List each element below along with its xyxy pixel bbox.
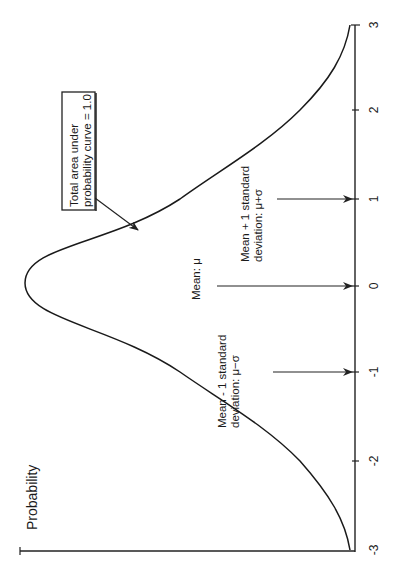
tick-label-p3: 3 xyxy=(367,21,381,28)
tick-label-p1: 1 xyxy=(367,195,381,202)
tick-label-m1: -1 xyxy=(367,366,381,377)
tick-label-0: 0 xyxy=(367,282,381,289)
y-axis-label: Probability xyxy=(24,465,40,530)
minus-sigma-label-line2: deviation: μ−σ xyxy=(229,355,241,428)
plus-sigma-label-line2: deviation: μ+σ xyxy=(252,189,264,262)
tick-label-m3: -3 xyxy=(367,544,381,555)
normal-distribution-chart: -3 -2 -1 0 1 2 3 Probability Total area … xyxy=(0,0,399,584)
callout-arrow xyxy=(95,198,138,230)
tick-label-m2: -2 xyxy=(367,455,381,466)
x-tick-labels: -3 -2 -1 0 1 2 3 xyxy=(367,21,381,555)
callout-line2: probability curve = 1.0 xyxy=(81,94,93,207)
callout-line1: Total area under xyxy=(68,124,80,207)
mean-label: Mean: μ xyxy=(190,258,202,300)
tick-label-p2: 2 xyxy=(367,106,381,113)
minus-sigma-label-line1: Mean - 1 standard xyxy=(216,335,228,428)
plus-sigma-label-line1: Mean + 1 standard xyxy=(239,166,251,262)
